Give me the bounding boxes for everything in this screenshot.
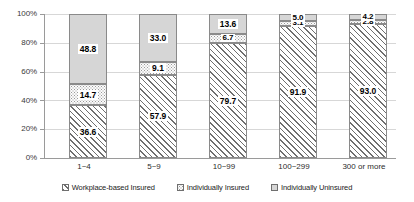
legend-label: Individually Uninsured [281,183,352,192]
bars-container: 36.6 14.7 48.8 57.9 9.1 33.0 79.7 [44,14,396,158]
y-axis-label-60: 60% [4,67,37,76]
bar-column-1-4[interactable]: 36.6 14.7 48.8 [69,14,107,158]
y-axis-label-40: 40% [4,96,37,105]
segment-value: 14.7 [78,90,99,100]
segment-value: 6.7 [221,34,234,42]
segment-workplace-based-insured[interactable]: 93.0 [349,24,387,158]
legend-item-individually-uninsured[interactable]: Individually Uninsured [271,183,352,192]
x-axis-category-4: 100~299 [259,162,329,171]
segment-value: 79.7 [218,96,239,106]
x-axis-category-2: 5~9 [119,162,189,171]
stacked-bar-chart: 100% 80% 60% 40% 20% 0% 36.6 14.7 48.8 5… [0,0,414,202]
x-axis-line [44,158,396,159]
segment-value: 33.0 [148,33,169,43]
chart-legend: Workplace-based Insured Individually Ins… [0,183,414,192]
segment-individually-insured[interactable]: 9.1 [139,62,177,75]
bar-column-100-299[interactable]: 91.9 3.1 5.0 [279,14,317,158]
legend-label: Individually Insured [187,183,249,192]
segment-workplace-based-insured[interactable]: 36.6 [69,105,107,158]
y-axis-label-20: 20% [4,124,37,133]
legend-swatch-solid-icon [271,184,278,191]
segment-individually-insured[interactable]: 3.1 [279,21,317,25]
segment-value: 57.9 [148,111,169,121]
segment-workplace-based-insured[interactable]: 79.7 [209,43,247,158]
legend-swatch-hatch-icon [62,184,69,191]
y-axis-label-0: 0% [4,153,37,162]
segment-value: 36.6 [78,127,99,137]
segment-value: 91.9 [288,87,309,97]
segment-value: 48.8 [78,44,99,54]
segment-value: 4.2 [361,13,374,21]
x-axis-category-1: 1~4 [49,162,119,171]
segment-workplace-based-insured[interactable]: 91.9 [279,26,317,158]
segment-individually-uninsured[interactable]: 5.0 [279,14,317,21]
y-axis-label-100: 100% [4,9,37,18]
x-axis-category-3: 10~99 [189,162,259,171]
segment-individually-uninsured[interactable]: 33.0 [139,14,177,62]
legend-label: Workplace-based Insured [72,183,155,192]
segment-workplace-based-insured[interactable]: 57.9 [139,75,177,158]
bar-column-5-9[interactable]: 57.9 9.1 33.0 [139,14,177,158]
segment-individually-insured[interactable]: 14.7 [69,84,107,105]
segment-value: 13.6 [218,19,239,29]
y-axis-label-80: 80% [4,38,37,47]
segment-value: 93.0 [358,86,379,96]
legend-swatch-dots-icon [177,184,184,191]
legend-item-workplace-based-insured[interactable]: Workplace-based Insured [62,183,155,192]
segment-individually-uninsured[interactable]: 4.2 [349,14,387,20]
bar-column-300-or-more[interactable]: 93.0 2.8 4.2 [349,14,387,158]
x-axis-category-5: 300 or more [329,162,399,171]
segment-individually-uninsured[interactable]: 13.6 [209,14,247,34]
segment-individually-insured[interactable]: 6.7 [209,34,247,44]
segment-individually-uninsured[interactable]: 48.8 [69,14,107,84]
legend-item-individually-insured[interactable]: Individually Insured [177,183,249,192]
y-tick-0 [40,158,44,159]
bar-column-10-99[interactable]: 79.7 6.7 13.6 [209,14,247,158]
segment-value: 9.1 [150,63,166,73]
segment-value: 5.0 [291,14,304,22]
